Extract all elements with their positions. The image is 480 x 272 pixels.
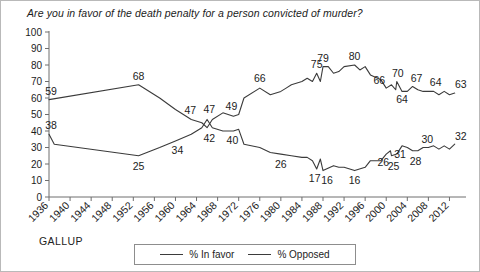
x-axis-tick-label: 1940 bbox=[46, 199, 71, 224]
x-axis-tick-label: 1944 bbox=[68, 199, 93, 224]
y-axis-tick-label: 40 bbox=[31, 126, 43, 137]
data-point-label: 49 bbox=[226, 100, 238, 112]
chart-container: Are you in favor of the death penalty fo… bbox=[0, 0, 480, 272]
data-point-label: 40 bbox=[227, 134, 239, 146]
x-axis-tick-label: 1972 bbox=[215, 199, 240, 224]
y-axis-tick-label: 100 bbox=[25, 27, 42, 38]
y-axis-tick-label: 20 bbox=[31, 159, 43, 170]
legend-line-icon bbox=[160, 254, 183, 255]
data-point-label: 80 bbox=[349, 50, 361, 62]
x-axis-tick-label: 1964 bbox=[173, 199, 198, 224]
x-axis-tick-label: 1956 bbox=[131, 199, 156, 224]
data-point-label: 63 bbox=[455, 78, 467, 90]
data-point-label: 31 bbox=[394, 148, 406, 160]
data-point-label: 30 bbox=[422, 133, 434, 145]
x-axis-tick-label: 2000 bbox=[363, 199, 388, 224]
chart-legend: % In favor % Opposed bbox=[134, 244, 356, 265]
y-axis-tick-label: 50 bbox=[31, 109, 43, 120]
y-axis-tick-label: 30 bbox=[31, 142, 43, 153]
x-axis-tick-label: 2004 bbox=[384, 199, 409, 224]
data-point-label: 42 bbox=[204, 132, 216, 144]
data-point-label: 68 bbox=[133, 70, 145, 82]
x-axis-tick-label: 1992 bbox=[320, 199, 345, 224]
plot-area: 1009080706050403020100193619401944194819… bbox=[1, 1, 480, 272]
data-point-label: 32 bbox=[455, 130, 467, 142]
data-point-label: 59 bbox=[45, 85, 57, 97]
data-point-label: 38 bbox=[45, 119, 57, 131]
data-point-label: 25 bbox=[388, 160, 400, 172]
data-point-label: 64 bbox=[430, 76, 442, 88]
x-axis-tick-label: 1952 bbox=[110, 199, 135, 224]
legend-entry-opposed: % Opposed bbox=[248, 249, 329, 260]
data-point-label: 66 bbox=[254, 72, 266, 84]
data-point-label: 67 bbox=[411, 72, 423, 84]
y-axis-tick-label: 60 bbox=[31, 93, 43, 104]
legend-label-opposed: % Opposed bbox=[277, 249, 329, 260]
y-axis-tick-label: 80 bbox=[31, 60, 43, 71]
data-point-label: 66 bbox=[373, 74, 385, 86]
data-point-label: 47 bbox=[204, 103, 216, 115]
x-axis-tick-label: 1988 bbox=[299, 199, 324, 224]
legend-line-icon bbox=[248, 254, 271, 255]
data-point-label: 70 bbox=[392, 67, 404, 79]
x-axis-tick-label: 1936 bbox=[25, 199, 50, 224]
y-axis-tick-label: 10 bbox=[31, 175, 43, 186]
legend-label-in-favor: % In favor bbox=[189, 249, 234, 260]
data-point-label: 64 bbox=[396, 93, 408, 105]
data-point-label: 16 bbox=[349, 174, 361, 186]
x-axis-tick-label: 1948 bbox=[89, 199, 114, 224]
x-axis-tick-label: 1976 bbox=[236, 199, 261, 224]
legend-entry-in-favor: % In favor bbox=[160, 249, 234, 260]
x-axis-tick-label: 1996 bbox=[342, 199, 367, 224]
data-point-label: 28 bbox=[410, 155, 422, 167]
data-point-label: 34 bbox=[172, 144, 184, 156]
data-point-label: 16 bbox=[321, 174, 333, 186]
x-axis-tick-label: 2008 bbox=[405, 199, 430, 224]
data-point-label: 26 bbox=[275, 158, 287, 170]
data-point-label: 17 bbox=[309, 172, 321, 184]
x-axis-tick-label: 1960 bbox=[152, 199, 177, 224]
data-point-label: 79 bbox=[317, 52, 329, 64]
x-axis-tick-label: 1984 bbox=[278, 199, 303, 224]
x-axis-tick-label: 1980 bbox=[257, 199, 282, 224]
y-axis-tick-label: 70 bbox=[31, 76, 43, 87]
x-axis-tick-label: 1968 bbox=[194, 199, 219, 224]
data-point-label: 25 bbox=[133, 160, 145, 172]
source-label: GALLUP bbox=[39, 235, 83, 247]
y-axis-tick-label: 90 bbox=[31, 43, 43, 54]
x-axis-tick-label: 2012 bbox=[426, 199, 451, 224]
data-point-label: 47 bbox=[184, 104, 196, 116]
